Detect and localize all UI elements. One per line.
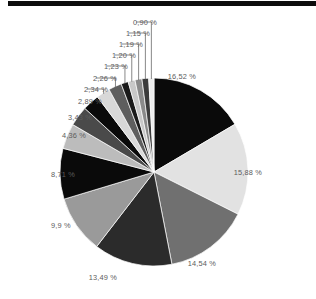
- pie-label-5: 9,9 %: [51, 221, 71, 230]
- pie-label-6: 8,71 %: [51, 170, 75, 179]
- pie-label-16: 0,90 %: [133, 18, 157, 27]
- pie-chart-canvas: [0, 0, 316, 299]
- pie-label-9: 2,89 %: [78, 97, 102, 106]
- pie-label-4: 13,49 %: [89, 273, 117, 282]
- pie-label-12: 1,23 %: [104, 62, 128, 71]
- pie-label-14: 1,19 %: [119, 40, 143, 49]
- pie-label-3: 14,54 %: [188, 259, 216, 268]
- pie-label-11: 2,26 %: [93, 74, 117, 83]
- pie-chart-figure: 16,52 % 15,88 % 14,54 % 13,49 % 9,9 % 8,…: [0, 0, 316, 299]
- pie-label-13: 1,20 %: [112, 51, 136, 60]
- pie-label-7: 4,36 %: [62, 131, 86, 140]
- pie-label-15: 1,15 %: [126, 29, 150, 38]
- pie-label-2: 15,88 %: [234, 168, 262, 177]
- pie-label-10: 2,34 %: [84, 85, 108, 94]
- pie-label-1: 16,52 %: [168, 72, 196, 81]
- pie-label-8: 3,43 %: [68, 113, 92, 122]
- pie-slice-group: [60, 78, 248, 266]
